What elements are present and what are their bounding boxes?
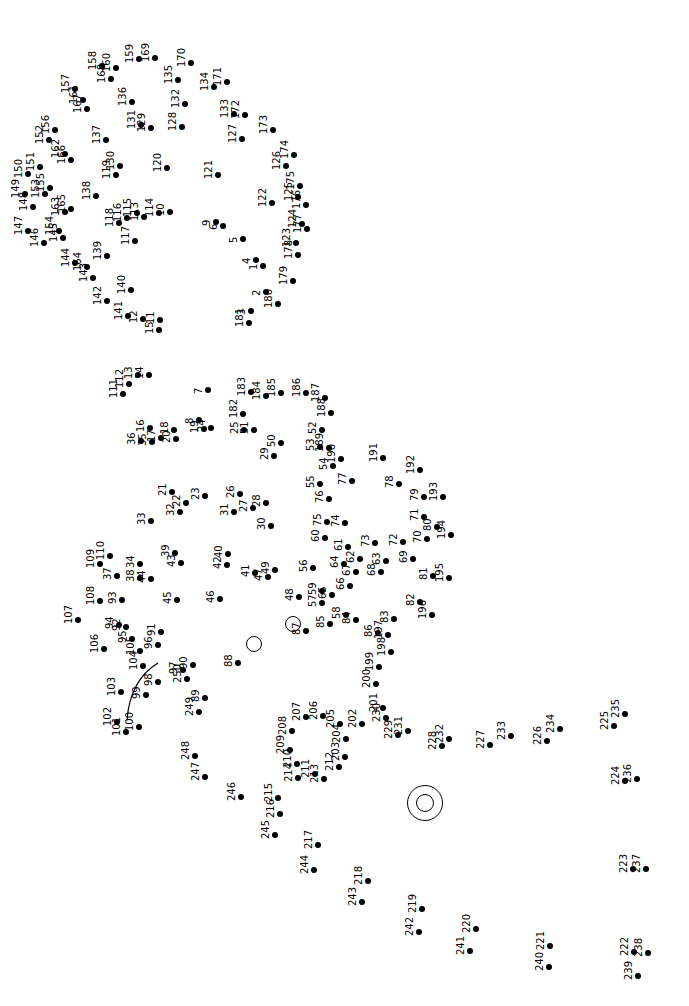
- dot-195: [446, 575, 452, 581]
- dot-170: [188, 60, 194, 66]
- dot-76: [326, 496, 332, 502]
- dot-number-label: 106: [90, 634, 100, 653]
- dot-number-label: 24: [197, 419, 207, 432]
- dot-number-label: 250: [173, 664, 183, 683]
- dot-number-label: 120: [153, 153, 163, 172]
- dot-23: [202, 493, 208, 499]
- dot-247: [202, 774, 208, 780]
- dot-number-label: 221: [536, 931, 546, 950]
- dot-105: [137, 648, 143, 654]
- dot-number-label: 242: [405, 917, 415, 936]
- dot-56: [310, 565, 316, 571]
- dot-number-label: 180: [264, 289, 274, 308]
- dot-118: [116, 220, 122, 226]
- dot-199: [376, 664, 382, 670]
- dot-number-label: 70: [413, 530, 423, 543]
- dot-number-label: 28: [252, 494, 262, 507]
- dot-68: [378, 569, 384, 575]
- dot-202: [359, 721, 365, 727]
- dot-number-label: 185: [267, 378, 277, 397]
- dot-148: [30, 204, 36, 210]
- dot-number-label: 246: [227, 782, 237, 801]
- dot-6: [220, 223, 226, 229]
- dot-165: [68, 206, 74, 212]
- dot-208: [289, 728, 295, 734]
- dot-85: [327, 621, 333, 627]
- dot-number-label: 208: [278, 716, 288, 735]
- dot-number-label: 77: [338, 472, 348, 485]
- dot-number-label: 69: [399, 550, 409, 563]
- dot-191: [380, 455, 386, 461]
- dot-219: [419, 906, 425, 912]
- dot-33: [148, 518, 154, 524]
- dot-154: [56, 228, 62, 234]
- eye-circle: [285, 616, 301, 632]
- dot-number-label: 194: [437, 520, 447, 539]
- dot-135: [175, 77, 181, 83]
- dot-number-label: 230: [372, 703, 382, 722]
- dot-55: [317, 481, 323, 487]
- dot-29: [271, 453, 277, 459]
- dot-number-label: 191: [369, 443, 379, 462]
- dot-156: [52, 127, 58, 133]
- dot-150: [25, 171, 31, 177]
- dot-number-label: 234: [546, 714, 556, 733]
- dot-114: [156, 210, 162, 216]
- dot-number-label: 41: [241, 564, 251, 577]
- dot-127: [239, 136, 245, 142]
- dot-number-label: 184: [252, 381, 262, 400]
- dot-number-label: 225: [600, 711, 610, 730]
- dot-43: [178, 560, 184, 566]
- dot-number-label: 31: [220, 503, 230, 516]
- dot-number-label: 200: [362, 669, 372, 688]
- dot-207: [303, 714, 309, 720]
- dot-167: [84, 106, 90, 112]
- dot-88: [235, 660, 241, 666]
- dot-number-label: 107: [64, 605, 74, 624]
- dot-248: [192, 753, 198, 759]
- dot-number-label: 247: [191, 762, 201, 781]
- dot-1: [260, 263, 266, 269]
- dot-number-label: 244: [300, 855, 310, 874]
- dot-87: [303, 628, 309, 634]
- dot-number-label: 75: [313, 513, 323, 526]
- dot-number-label: 27: [239, 499, 249, 512]
- dot-72: [400, 539, 406, 545]
- dot-number-label: 30: [257, 517, 267, 530]
- dot-107: [75, 617, 81, 623]
- dot-104: [140, 663, 146, 669]
- dot-110: [107, 553, 113, 559]
- dot-number-label: 26: [226, 485, 236, 498]
- dot-number-label: 198: [377, 637, 387, 656]
- dot-number-label: 23: [191, 487, 201, 500]
- dot-42: [224, 562, 230, 568]
- dot-number-label: 46: [206, 590, 216, 603]
- dot-83: [391, 616, 397, 622]
- dot-67: [353, 569, 359, 575]
- dot-235: [622, 711, 628, 717]
- dot-number-label: 34: [126, 555, 136, 568]
- dot-227: [487, 742, 493, 748]
- dot-number-label: 182: [229, 399, 239, 418]
- dot-11: [157, 317, 163, 323]
- dot-number-label: 207: [292, 702, 302, 721]
- dot-236: [634, 776, 640, 782]
- dot-number-label: 178: [284, 240, 294, 259]
- dot-number-label: 60: [311, 529, 321, 542]
- dot-number-label: 42: [213, 556, 223, 569]
- dot-5: [240, 236, 246, 242]
- dot-number-label: 114: [145, 198, 155, 217]
- dot-155: [47, 185, 53, 191]
- dot-120: [164, 165, 170, 171]
- dot-number-label: 223: [619, 854, 629, 873]
- dot-number-label: 190: [327, 444, 337, 463]
- dot-number-label: 224: [611, 766, 621, 785]
- dot-78: [396, 481, 402, 487]
- dot-149: [22, 191, 28, 197]
- dot-number-label: 142: [93, 286, 103, 305]
- dot-number-label: 108: [86, 586, 96, 605]
- dot-49: [272, 567, 278, 573]
- dot-number-label: 216: [266, 799, 276, 818]
- dot-70: [424, 536, 430, 542]
- dot-176: [303, 202, 309, 208]
